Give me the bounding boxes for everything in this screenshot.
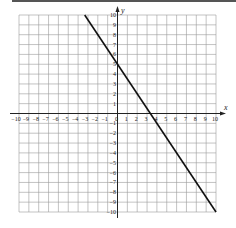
y-tick-label: −4 — [110, 150, 116, 156]
coordinate-plane: −10−9−8−7−6−5−4−3−2−1012345678910−10−9−8… — [0, 0, 236, 228]
y-tick-label: −9 — [110, 199, 116, 205]
y-axis-arrow-icon — [116, 6, 120, 12]
y-tick-label: 9 — [113, 22, 116, 28]
x-tick-label: 2 — [135, 116, 138, 122]
axes — [10, 6, 226, 218]
x-tick-label: 9 — [204, 116, 207, 122]
y-tick-label: 3 — [113, 81, 116, 87]
x-tick-label: −7 — [42, 116, 48, 122]
y-tick-label: 4 — [113, 71, 116, 77]
x-tick-label: −6 — [52, 116, 58, 122]
y-tick-label: 10 — [110, 12, 116, 18]
y-tick-label: −5 — [110, 160, 116, 166]
y-tick-label: −8 — [110, 189, 116, 195]
y-tick-label: −3 — [110, 140, 116, 146]
y-tick-label: 7 — [113, 42, 116, 48]
x-tick-label: −9 — [23, 116, 29, 122]
y-tick-label: 6 — [113, 51, 116, 57]
x-tick-label: −2 — [92, 116, 98, 122]
x-axis-arrow-icon — [220, 112, 226, 116]
x-tick-label: −10 — [11, 116, 20, 122]
x-tick-label: −4 — [72, 116, 78, 122]
x-tick-label: 7 — [184, 116, 187, 122]
x-tick-label: −3 — [82, 116, 88, 122]
x-tick-label: 5 — [164, 116, 167, 122]
x-tick-label: −8 — [33, 116, 39, 122]
x-tick-label: 3 — [145, 116, 148, 122]
x-tick-label: −5 — [62, 116, 68, 122]
x-tick-label: 8 — [194, 116, 197, 122]
y-tick-label: 8 — [113, 32, 116, 38]
y-tick-label: 1 — [113, 101, 116, 107]
y-tick-label: −7 — [110, 179, 116, 185]
y-tick-label: −1 — [110, 120, 116, 126]
y-tick-label: −6 — [110, 170, 116, 176]
y-axis-label: y — [120, 6, 125, 15]
y-tick-label: 2 — [113, 91, 116, 97]
y-tick-label: −2 — [110, 130, 116, 136]
x-tick-label: 10 — [212, 116, 218, 122]
x-axis-label: x — [223, 103, 228, 112]
x-tick-label: −1 — [101, 116, 107, 122]
x-tick-label: 1 — [125, 116, 128, 122]
y-tick-label: −10 — [107, 209, 116, 215]
x-tick-label: 6 — [174, 116, 177, 122]
